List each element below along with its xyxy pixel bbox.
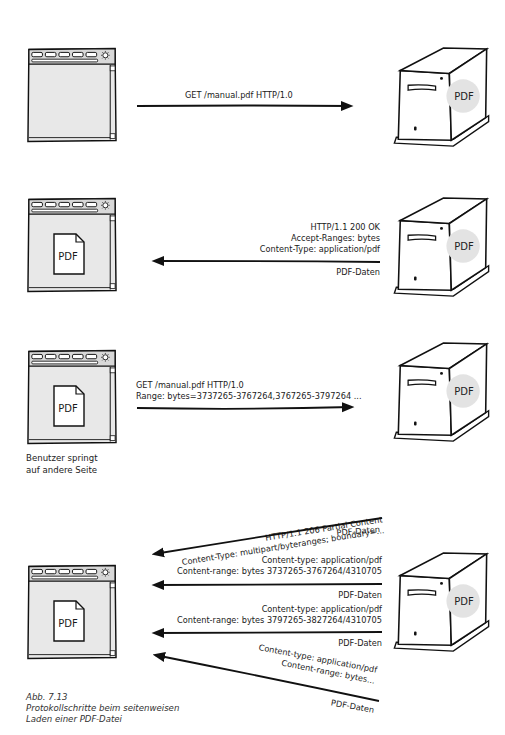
response-headers: HTTP/1.1 200 OK Accept-Ranges: bytes Con…	[230, 222, 380, 255]
header-content-range: Content-range: bytes 3737265-3767264/431…	[160, 566, 382, 577]
range-request-lines: GET /manual.pdf HTTP/1.0 Range: bytes=37…	[136, 380, 362, 402]
figure-caption: Abb. 7.13 Protokollschritte beim seitenw…	[26, 692, 179, 725]
browser-window-with-pdf: PDF	[26, 196, 117, 294]
figure-number: Abb. 7.13	[26, 692, 179, 703]
part-3-headers: Content-type: application/pdf Content-ra…	[160, 604, 382, 626]
header-content-type: Content-type: application/pdf	[160, 604, 382, 615]
header-content-type: Content-type: application/pdf	[160, 555, 382, 566]
header-content-type: Content-Type: application/pdf	[230, 244, 380, 255]
status-line: HTTP/1.1 200 OK	[230, 222, 380, 233]
browser-window-icon	[26, 46, 117, 144]
pdf-document-label: PDF	[52, 251, 84, 262]
body-label: PDF-Daten	[280, 267, 380, 278]
server-pdf-badge: PDF	[448, 596, 480, 607]
request-arrow	[136, 100, 361, 112]
user-action-note: Benutzer springt auf andere Seite	[26, 452, 98, 476]
range-header: Range: bytes=3737265-3767264,3767265-379…	[136, 391, 362, 402]
pdf-document-label: PDF	[52, 618, 84, 629]
range-request-arrow	[136, 402, 362, 414]
server-icon: PDF	[392, 195, 491, 303]
figure-caption-line-2: Laden einer PDF-Datei	[26, 714, 179, 725]
pdf-document-label: PDF	[52, 403, 84, 414]
figure-caption-line-1: Protokollschritte beim seitenweisen	[26, 703, 179, 714]
server-pdf-badge: PDF	[448, 241, 480, 252]
server-icon: PDF	[392, 550, 491, 658]
request-line: GET /manual.pdf HTTP/1.0	[136, 380, 362, 391]
browser-window-with-pdf: PDF	[26, 348, 117, 446]
part-2-headers: Content-type: application/pdf Content-ra…	[160, 555, 382, 577]
server-pdf-badge: PDF	[448, 91, 480, 102]
browser-window-with-pdf: PDF	[26, 563, 117, 661]
header-accept-ranges: Accept-Ranges: bytes	[230, 233, 380, 244]
server-icon: PDF	[392, 340, 491, 448]
header-content-range: Content-range: bytes 3797265-3827264/431…	[160, 615, 382, 626]
server-icon: PDF	[392, 45, 491, 153]
body-label: PDF-Daten	[282, 590, 382, 601]
server-pdf-badge: PDF	[448, 386, 480, 397]
